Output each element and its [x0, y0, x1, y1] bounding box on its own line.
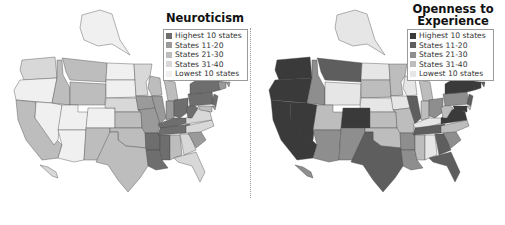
state-mi — [164, 80, 178, 101]
state-fl — [174, 152, 205, 182]
state-or — [14, 78, 57, 103]
legend-item: States 11-20 — [410, 41, 490, 51]
state-sd — [361, 80, 391, 98]
state-nj — [467, 94, 473, 106]
state-de — [212, 106, 216, 110]
state-ks — [370, 112, 397, 128]
legend-swatch — [410, 33, 416, 39]
state-or — [269, 78, 312, 103]
legend-item: Lowest 10 states — [166, 69, 244, 79]
state-co — [341, 108, 370, 128]
legend-swatch — [166, 71, 172, 77]
state-nd — [106, 63, 135, 80]
legend-item: States 11-20 — [166, 41, 244, 51]
state-ak — [335, 10, 385, 55]
state-nj — [212, 94, 218, 106]
legend-swatch — [410, 52, 416, 58]
legend-item: States 31-40 — [166, 60, 244, 70]
state-ri — [481, 82, 485, 87]
legend-swatch — [166, 33, 172, 39]
legend-swatch — [410, 42, 416, 48]
state-ak — [80, 10, 130, 55]
state-co — [86, 108, 115, 128]
state-mi — [419, 80, 433, 101]
openness-map-panel: Openness to Experience Highest 10 states… — [253, 0, 505, 225]
legend-swatch — [410, 71, 416, 77]
state-mt — [62, 58, 107, 82]
state-in — [166, 101, 174, 120]
state-ms — [415, 135, 425, 160]
state-az — [58, 130, 86, 162]
state-ia — [391, 96, 410, 110]
legend-item: States 21-30 — [166, 50, 244, 60]
state-pa — [443, 92, 469, 106]
state-ks — [115, 112, 142, 128]
state-wa — [275, 57, 312, 80]
state-az — [313, 130, 341, 162]
legend-item: States 31-40 — [410, 60, 490, 70]
state-mt — [317, 58, 362, 82]
openness-title: Openness to Experience — [403, 3, 503, 27]
legend-swatch — [166, 52, 172, 58]
state-ut — [313, 105, 343, 130]
legend-swatch — [166, 61, 172, 67]
legend-item: States 21-30 — [410, 50, 490, 60]
state-wy — [70, 82, 106, 105]
state-wa — [20, 57, 57, 80]
legend-swatch — [410, 61, 416, 67]
state-wy — [325, 82, 361, 105]
state-ri — [226, 82, 230, 87]
state-in — [421, 101, 429, 120]
neuroticism-map-panel: Neuroticism Highest 10 states States 11-… — [0, 0, 250, 225]
state-ut — [58, 105, 88, 130]
state-nd — [361, 63, 390, 80]
state-fl — [429, 152, 460, 182]
state-ar — [145, 133, 160, 150]
state-wi — [148, 76, 162, 96]
state-ia — [136, 96, 155, 110]
neuroticism-title: Neuroticism — [160, 12, 250, 24]
openness-legend: Highest 10 states States 11-20 States 21… — [407, 29, 494, 81]
legend-item: Highest 10 states — [166, 31, 244, 41]
state-hi — [295, 165, 313, 178]
state-de — [467, 106, 471, 110]
legend-item: Lowest 10 states — [410, 69, 490, 79]
state-ar — [400, 133, 415, 150]
state-ms — [160, 135, 170, 160]
state-hi — [40, 165, 58, 178]
neuroticism-legend: Highest 10 states States 11-20 States 21… — [163, 29, 248, 81]
state-sd — [106, 80, 136, 98]
legend-swatch — [166, 42, 172, 48]
state-pa — [188, 92, 214, 106]
legend-item: Highest 10 states — [410, 31, 490, 41]
panel-divider — [250, 28, 251, 198]
